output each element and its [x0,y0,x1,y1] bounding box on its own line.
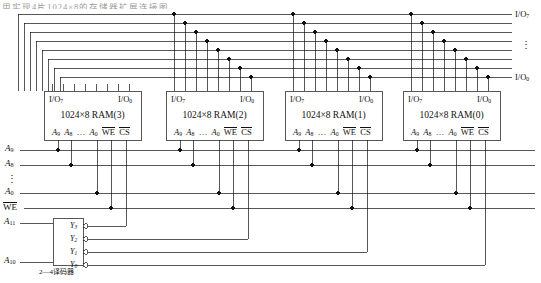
decoder-output-y2: Y2 [70,234,77,243]
ram0-io0-label: I/O0 [477,94,491,104]
ram3-title: 1024×8 RAM(3) [44,110,141,120]
ram0-pin-labels: A9 A8 … A0 WE CS [411,127,489,137]
ram0-io7-label: I/O7 [408,94,422,104]
signal-label-a8: A8 [5,159,14,168]
circuit-diagram-canvas: 用实现4片1024×8的存储器扩展连接图 [0,0,541,283]
ram1-title: 1024×8 RAM(1) [285,110,382,120]
signal-label-a9: A9 [5,144,14,153]
bus-ellipsis: ⋮ [521,40,531,50]
decoder-output-y3: Y3 [70,221,77,230]
ram1-io0-label: I/O0 [359,94,373,104]
ram0-title: 1024×8 RAM(0) [403,110,500,120]
ram1-pin-labels: A9 A8 … A0 WE CS [293,127,371,137]
ram3-io0-label: I/O0 [118,94,132,104]
signal-label-we: WE [3,202,17,212]
ram3-io7-label: I/O7 [49,94,63,104]
ram3-pin-labels: A9 A8 … A0 WE CS [52,127,130,137]
ram2-pin-labels: A9 A8 … A0 WE CS [174,127,252,137]
bus-label-io7: I/O7 [515,9,529,19]
ram2-title: 1024×8 RAM(2) [166,110,263,120]
ram2-io7-label: I/O7 [171,94,185,104]
signal-label-a0: A0 [5,187,14,196]
signal-label-a11: A11 [4,217,15,226]
decoder-output-y1: Y1 [70,247,77,256]
signal-label-ellipsis: ⋮ [7,174,17,184]
decoder-caption: 2—4译码器 [39,266,74,276]
ram1-io7-label: I/O7 [290,94,304,104]
ram2-io0-label: I/O0 [240,94,254,104]
wire-layer [0,0,541,283]
signal-label-a10: A10 [4,256,16,265]
bus-label-io0: I/O0 [515,72,529,82]
